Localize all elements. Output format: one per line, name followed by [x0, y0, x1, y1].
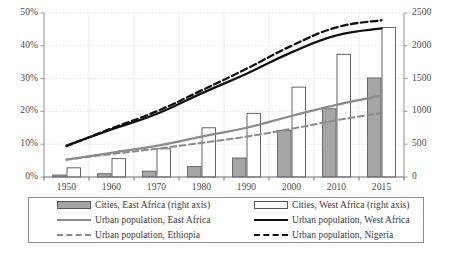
bar-cities-east-africa [278, 130, 292, 177]
y-axis-left-tick-label: 20% [4, 105, 38, 115]
legend-item[interactable]: Cities, West Africa (right axis) [226, 200, 423, 210]
legend-swatch-dash-black-icon [254, 230, 288, 239]
legend-swatch-line-gray-icon [57, 215, 91, 224]
bar-cities-east-africa [143, 171, 157, 177]
bar-cities-east-africa [233, 158, 247, 177]
chart-figure: 0%10%20%30%40%50% 05001000150020002500 1… [0, 0, 452, 259]
y-axis-left-tick-label: 40% [4, 40, 38, 50]
bar-cities-west-africa [67, 168, 81, 177]
legend-item-label: Urban population, East Africa [95, 215, 210, 225]
legend-swatch-bar-gray-icon [57, 201, 91, 209]
bar-cities-west-africa [382, 27, 396, 177]
legend-swatch-line-black-icon [254, 215, 288, 224]
legend-item[interactable]: Urban population, Nigeria [226, 230, 423, 240]
legend-item[interactable]: Urban population, East Africa [29, 215, 226, 225]
y-axis-right-tick-label: 2000 [412, 40, 448, 50]
x-axis-tick-label: 2010 [315, 182, 359, 192]
chart-legend: Cities, East Africa (right axis)Cities, … [28, 197, 424, 243]
y-axis-left-tick-label: 30% [4, 73, 38, 83]
y-axis-right-tick-label: 2500 [412, 7, 448, 17]
bar-cities-east-africa [323, 109, 337, 177]
y-axis-right-tick-label: 500 [412, 138, 448, 148]
legend-swatch-bar-white-icon [254, 201, 288, 209]
y-axis-right-tick-label: 0 [412, 171, 448, 181]
bar-cities-west-africa [247, 113, 261, 177]
legend-item-label: Cities, East Africa (right axis) [95, 200, 210, 210]
legend-item-label: Urban population, West Africa [292, 215, 410, 225]
legend-item-label: Cities, West Africa (right axis) [292, 200, 410, 210]
legend-item[interactable]: Cities, East Africa (right axis) [29, 200, 226, 210]
x-axis-tick-label: 1950 [45, 182, 89, 192]
legend-item-label: Urban population, Ethiopia [95, 230, 200, 240]
bar-cities-west-africa [112, 159, 126, 177]
y-axis-right-tick-label: 1000 [412, 105, 448, 115]
bar-cities-east-africa [368, 78, 382, 177]
x-axis-tick-label: 2000 [270, 182, 314, 192]
y-axis-left-tick-label: 50% [4, 7, 38, 17]
x-axis-tick-label: 1960 [90, 182, 134, 192]
legend-item[interactable]: Urban population, Ethiopia [29, 230, 226, 240]
x-axis-tick-label: 1990 [225, 182, 269, 192]
x-axis-tick-label: 1970 [135, 182, 179, 192]
x-axis-tick-label: 2015 [360, 182, 404, 192]
legend-item-label: Urban population, Nigeria [292, 230, 393, 240]
legend-item[interactable]: Urban population, West Africa [226, 215, 423, 225]
y-axis-right-tick-label: 1500 [412, 73, 448, 83]
bar-cities-west-africa [157, 149, 171, 177]
bar-cities-east-africa [188, 167, 202, 177]
legend-swatch-dash-gray-icon [57, 230, 91, 239]
y-axis-left-tick-label: 10% [4, 138, 38, 148]
bar-cities-west-africa [292, 87, 306, 177]
bar-cities-west-africa [337, 54, 351, 177]
x-axis-tick-label: 1980 [180, 182, 224, 192]
y-axis-left-tick-label: 0% [4, 171, 38, 181]
